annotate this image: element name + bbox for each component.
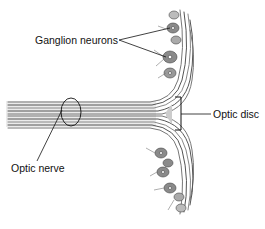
svg-text:Optic nerve: Optic nerve [11, 162, 65, 174]
optic-disc-label: Optic disc [175, 97, 259, 130]
ganglion-neurons-label: Ganglion neurons [35, 28, 170, 57]
svg-text:Optic disc: Optic disc [213, 108, 259, 120]
ganglion-cells-top [154, 11, 181, 78]
optic-nerve-diagram: Ganglion neurons Optic disc Optic nerve [0, 0, 265, 229]
svg-text:Ganglion neurons: Ganglion neurons [35, 34, 118, 46]
